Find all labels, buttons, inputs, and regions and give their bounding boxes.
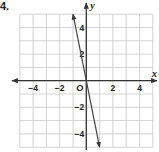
coordinate-plane: xyO −4−22442−2−4 xyxy=(0,0,159,152)
x-tick-label: 2 xyxy=(111,83,116,93)
origin-label: O xyxy=(76,83,83,93)
x-axis-label: x xyxy=(151,68,157,79)
y-tick-label: 4 xyxy=(80,23,85,33)
axes: xyO xyxy=(12,0,157,150)
y-tick-label: −4 xyxy=(75,129,85,139)
x-tick-label: 4 xyxy=(137,83,142,93)
y-tick-label: −2 xyxy=(75,102,85,112)
y-axis-label: y xyxy=(89,0,95,11)
x-tick-label: −4 xyxy=(28,83,38,93)
x-tick-label: −2 xyxy=(55,83,65,93)
